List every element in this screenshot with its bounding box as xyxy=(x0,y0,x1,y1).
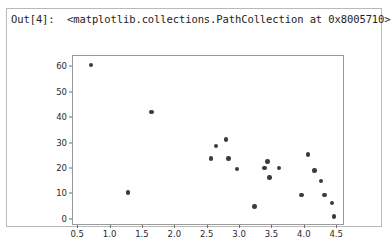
x-tick-label: 2.0 xyxy=(168,229,182,239)
x-tick-label: 1.5 xyxy=(135,229,149,239)
output-prompt-text: Out[4]: <matplotlib.collections.PathColl… xyxy=(11,12,391,26)
scatter-point xyxy=(330,201,335,206)
x-tick-label: 2.5 xyxy=(200,229,214,239)
scatter-point xyxy=(265,159,270,164)
scatter-point xyxy=(209,156,214,161)
x-tick-mark xyxy=(271,225,272,228)
y-tick-label: 50 xyxy=(56,87,67,97)
x-tick-mark xyxy=(142,225,143,228)
scatter-point xyxy=(306,152,311,157)
scatter-point xyxy=(267,175,272,180)
y-tick-label: 10 xyxy=(56,188,67,198)
notebook-output-cell: Out[4]: <matplotlib.collections.PathColl… xyxy=(6,8,382,227)
scatter-point xyxy=(149,110,154,115)
x-tick-mark xyxy=(304,225,305,228)
x-tick-label: 3.5 xyxy=(265,229,279,239)
scatter-point xyxy=(262,166,267,171)
x-tick-label: 4.0 xyxy=(297,229,311,239)
scatter-plot-axes xyxy=(72,55,344,225)
y-tick-label: 60 xyxy=(56,61,67,71)
scatter-point xyxy=(277,166,282,171)
y-tick-label: 0 xyxy=(62,214,67,224)
x-tick-label: 0.5 xyxy=(70,229,84,239)
y-tick-label: 20 xyxy=(56,163,67,173)
x-tick-label: 4.5 xyxy=(329,229,343,239)
scatter-point xyxy=(332,214,337,219)
scatter-point xyxy=(226,156,231,161)
x-tick-mark xyxy=(336,225,337,228)
x-tick-mark xyxy=(110,225,111,228)
scatter-point xyxy=(322,193,327,198)
y-tick-label: 40 xyxy=(56,112,67,122)
scatter-point xyxy=(319,179,324,184)
x-tick-label: 1.0 xyxy=(103,229,117,239)
scatter-point xyxy=(312,168,317,173)
y-tick-label: 30 xyxy=(56,138,67,148)
scatter-point xyxy=(235,167,240,172)
scatter-point xyxy=(224,137,229,142)
x-tick-mark xyxy=(77,225,78,228)
scatter-point xyxy=(89,63,94,68)
x-tick-mark xyxy=(239,225,240,228)
scatter-point xyxy=(126,190,131,195)
matplotlib-figure: 0102030405060 0.51.01.52.02.53.03.54.04.… xyxy=(7,29,381,226)
scatter-point xyxy=(299,193,304,198)
x-tick-label: 3.0 xyxy=(232,229,246,239)
x-tick-mark xyxy=(207,225,208,228)
x-tick-mark xyxy=(174,225,175,228)
scatter-point xyxy=(252,204,257,209)
scatter-point xyxy=(214,144,219,149)
